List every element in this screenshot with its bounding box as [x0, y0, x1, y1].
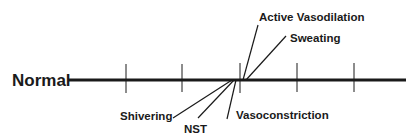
- nst-label: NST: [184, 124, 207, 136]
- active-vasodilation-line: [243, 25, 258, 80]
- sweating-line: [246, 36, 286, 80]
- active-vasodilation-label: Active Vasodilation: [259, 12, 364, 24]
- vasoconstriction-label: Vasoconstriction: [236, 110, 329, 122]
- baseline-label: Normal: [12, 72, 71, 89]
- shivering-label: Shivering: [120, 111, 172, 123]
- thermoregulation-threshold-diagram: Normal Active Vasodilation Sweating Shiv…: [0, 0, 411, 139]
- sweating-label: Sweating: [290, 33, 340, 45]
